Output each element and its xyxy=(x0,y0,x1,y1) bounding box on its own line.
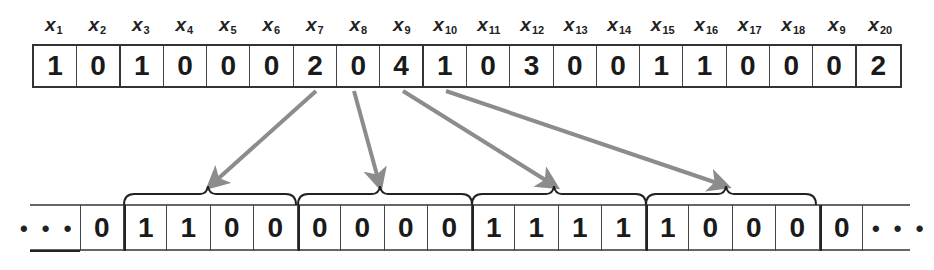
bottom-cell: 0 xyxy=(341,205,385,251)
bottom-cell: 0 xyxy=(689,205,733,251)
bottom-cell: 1 xyxy=(167,205,211,251)
bottom-cell: 1 xyxy=(602,205,646,251)
bottom-cell: 1 xyxy=(559,205,603,251)
bottom-cell: 0 xyxy=(733,205,777,251)
brace-icon xyxy=(124,186,296,205)
bottom-cell: 0 xyxy=(776,205,820,251)
brace-icon xyxy=(646,186,816,205)
bottom-cell: 0 xyxy=(254,205,298,251)
arrow-icon xyxy=(403,91,555,186)
bottom-sequence-row: 0 1 1 0 0 0 0 0 0 1 1 1 1 1 0 0 0 0 xyxy=(80,205,863,251)
bottom-cell: 0 xyxy=(385,205,429,251)
bottom-cell: 0 xyxy=(428,205,472,251)
trailing-ellipsis: • • • xyxy=(872,216,927,242)
bottom-cell: 1 xyxy=(472,205,516,251)
leading-ellipsis: • • • xyxy=(20,216,75,242)
arrow-icon xyxy=(354,91,380,186)
bottom-cell: 0 xyxy=(80,205,124,251)
bottom-cell: 1 xyxy=(124,205,168,251)
brace-icon xyxy=(472,186,646,205)
arrow-icon xyxy=(210,91,316,186)
arrow-icon xyxy=(446,91,726,186)
bottom-cell: 1 xyxy=(515,205,559,251)
brace-icon xyxy=(298,186,472,205)
bottom-cell: 0 xyxy=(298,205,342,251)
bottom-cell: 0 xyxy=(211,205,255,251)
bottom-cell: 0 xyxy=(820,205,864,251)
bottom-cell: 1 xyxy=(646,205,690,251)
